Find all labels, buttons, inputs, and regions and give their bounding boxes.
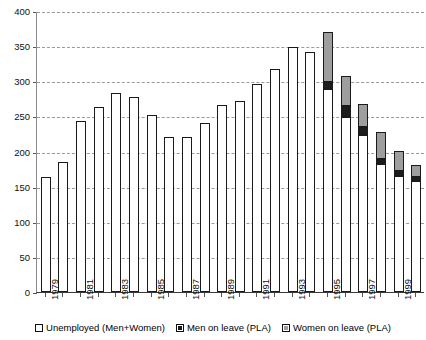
x-axis-tick [80,293,81,297]
legend-label: Unemployed (Men+Women) [46,322,165,333]
x-axis-tick-label: 1995 [332,279,342,300]
bar-segment [164,137,174,292]
x-axis-tick [362,293,363,297]
legend-swatch-icon [35,324,43,332]
bar-segment [217,105,227,292]
x-axis-tick [380,293,381,297]
legend-item[interactable]: Women on leave (PLA) [282,322,391,333]
bar-segment [76,121,86,292]
x-axis-tick-label: 1981 [85,279,95,300]
bar-segment [323,32,333,82]
bar-segment [411,177,421,181]
x-axis-tick [45,293,46,297]
bar-segment [411,165,421,177]
bar-segment [129,97,139,292]
bar-segment [252,84,262,292]
y-axis-tick-label: 300 [4,77,30,87]
bar-segment [341,117,351,292]
x-axis-tick [115,293,116,297]
bar-segment [376,164,386,292]
y-axis-tick-label: 400 [4,7,30,17]
x-axis-tick [62,293,63,297]
y-axis-tick-label: 100 [4,218,30,228]
legend-label: Women on leave (PLA) [293,322,391,333]
bar-segment [411,181,421,292]
x-axis-tick-label: 1997 [367,279,377,300]
gridline [37,12,424,13]
x-axis-tick-label: 1991 [261,279,271,300]
y-axis-tick-label: 200 [4,148,30,158]
legend-swatch-icon [176,324,184,332]
bar-segment [394,171,404,176]
x-axis-tick [256,293,257,297]
bar-segment [94,107,104,292]
x-axis-tick [274,293,275,297]
x-axis-tick [186,293,187,297]
x-axis-tick [398,293,399,297]
bar-segment [394,151,404,171]
bar-segment [58,162,68,292]
chart-title [0,0,426,1]
bar-segment [376,132,386,159]
bar-segment [288,47,298,292]
x-axis-tick-label: 1989 [226,279,236,300]
x-axis-tick [345,293,346,297]
bar-segment [358,127,368,135]
x-axis-tick-label: 1985 [156,279,166,300]
x-axis-tick [204,293,205,297]
legend-item[interactable]: Men on leave (PLA) [176,322,271,333]
legend-item[interactable]: Unemployed (Men+Women) [35,322,165,333]
bar-segment [200,123,210,292]
x-axis-tick [292,293,293,297]
y-axis-tick-label: 0 [4,288,30,298]
bar-segment [41,177,51,292]
bar-segment [358,104,368,127]
bar-segment [358,135,368,292]
bar-segment [376,159,386,165]
x-axis-tick [239,293,240,297]
bar-segment [305,52,315,292]
x-axis-tick [133,293,134,297]
y-axis-tick [33,293,37,294]
bar-segment [111,93,121,292]
y-axis-tick-label: 150 [4,183,30,193]
x-axis-tick [98,293,99,297]
bar-segment [323,82,333,89]
legend-label: Men on leave (PLA) [187,322,271,333]
x-axis-tick [327,293,328,297]
x-axis-tick [151,293,152,297]
x-axis-tick-label: 1983 [120,279,130,300]
plot-area [36,12,424,293]
bar-segment [394,176,404,292]
bar-segment [323,89,333,292]
bar-segment [341,106,351,117]
bar-chart: 050100150200250300350400 197919811983198… [0,0,426,340]
bar-segment [341,76,351,106]
y-axis-tick-label: 350 [4,42,30,52]
legend-swatch-icon [282,324,290,332]
gridline [37,82,424,83]
x-axis-tick-label: 1979 [50,279,60,300]
bar-segment [147,115,157,292]
chart-legend: Unemployed (Men+Women)Men on leave (PLA)… [0,322,426,333]
y-axis-tick-label: 250 [4,112,30,122]
x-axis-tick [168,293,169,297]
x-axis-tick [221,293,222,297]
bar-segment [182,137,192,292]
x-axis-tick-label: 1993 [297,279,307,300]
bar-segment [235,101,245,292]
x-axis-tick-label: 1999 [403,279,413,300]
bar-segment [270,69,280,292]
x-axis-tick-label: 1987 [191,279,201,300]
gridline [37,47,424,48]
x-axis-tick [415,293,416,297]
x-axis-tick [309,293,310,297]
y-axis-tick-label: 50 [4,253,30,263]
